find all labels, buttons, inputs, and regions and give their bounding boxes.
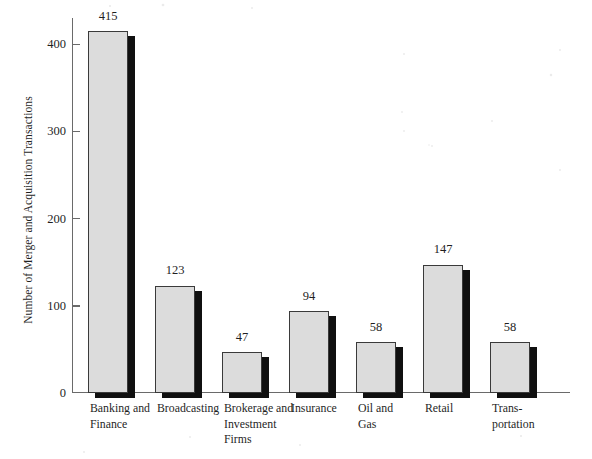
bar-group: 415: [88, 25, 135, 393]
y-axis-tick-label: 0: [14, 387, 66, 400]
bar-group: 94: [289, 305, 336, 393]
x-axis-category-label: Trans-portation: [492, 401, 568, 432]
bar-group: 58: [490, 336, 537, 393]
x-axis-category-line: Insurance: [291, 401, 367, 417]
bar-group: 47: [222, 346, 269, 393]
bar: [423, 265, 463, 393]
x-axis-category-line: Brokerage and: [224, 401, 300, 417]
bar-chart: Number of Merger and Acquisition Transac…: [0, 0, 592, 459]
bar: [356, 342, 396, 393]
x-axis-category-label: Banking andFinance: [90, 401, 166, 432]
y-axis-tick-label: 200: [14, 213, 66, 226]
x-axis-category-line: Oil and: [358, 401, 434, 417]
x-axis-category-line: Banking and: [90, 401, 166, 417]
x-axis-category-line: portation: [492, 417, 568, 433]
x-axis-category-line: Investment: [224, 417, 300, 433]
x-axis-category-label: Brokerage andInvestmentFirms: [224, 401, 300, 448]
x-axis-category-line: Finance: [90, 417, 166, 433]
y-axis-tick-label-text: 300: [20, 125, 66, 138]
plot-area: 41512347945814758: [72, 18, 570, 393]
x-axis-category-label: Insurance: [291, 401, 367, 417]
y-axis-tick-label-text: 400: [20, 38, 66, 51]
bar-value-label: 147: [413, 243, 473, 256]
x-axis-category-line: Gas: [358, 417, 434, 433]
bar-value-label: 47: [212, 331, 272, 344]
bar-value-label: 58: [480, 321, 540, 334]
y-axis-tick-label-text: 200: [20, 213, 66, 226]
x-axis-category-line: Broadcasting: [157, 401, 233, 417]
y-axis-tick-label-text: 0: [20, 387, 66, 400]
bar: [88, 31, 128, 393]
bar-value-label: 415: [78, 10, 138, 23]
bar: [155, 286, 195, 393]
y-axis-tick-label-text: 100: [20, 300, 66, 313]
y-axis-tick-label: 400: [14, 38, 66, 51]
x-axis-category-line: Retail: [425, 401, 501, 417]
bar-value-label: 58: [346, 321, 406, 334]
x-axis-category-label: Oil andGas: [358, 401, 434, 432]
bar-value-label: 94: [279, 290, 339, 303]
bar: [490, 342, 530, 393]
bar-value-label: 123: [145, 264, 205, 277]
y-axis-title: Number of Merger and Acquisition Transac…: [22, 10, 38, 410]
bar-group: 58: [356, 336, 403, 393]
x-axis-category-line: Trans-: [492, 401, 568, 417]
x-axis-category-label: Broadcasting: [157, 401, 233, 417]
x-axis-category-line: Firms: [224, 432, 300, 448]
y-axis-tick-label: 100: [14, 300, 66, 313]
bar-group: 147: [423, 259, 470, 393]
y-axis-tick-label: 300: [14, 125, 66, 138]
x-axis-category-label: Retail: [425, 401, 501, 417]
bar: [222, 352, 262, 393]
bar-group: 123: [155, 280, 202, 393]
bar: [289, 311, 329, 393]
